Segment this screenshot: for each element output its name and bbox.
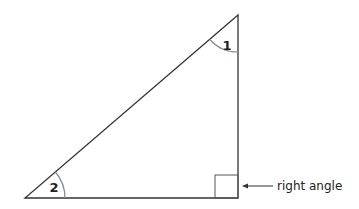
right-angle-marker bbox=[215, 175, 238, 198]
angle-2-label: 2 bbox=[49, 180, 58, 195]
arrowhead-icon bbox=[242, 184, 248, 189]
triangle-diagram: 1 2 right angle bbox=[0, 0, 359, 209]
angle-1-label: 1 bbox=[222, 38, 231, 53]
triangle bbox=[25, 15, 238, 198]
triangle-svg: 1 2 right angle bbox=[0, 0, 359, 209]
right-angle-label: right angle bbox=[277, 179, 342, 193]
